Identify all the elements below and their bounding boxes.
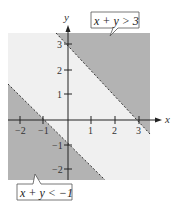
y-axis-arrow-icon <box>66 25 71 32</box>
y-tick-label: 1 <box>57 89 62 100</box>
y-tick-label: −1 <box>52 140 63 151</box>
y-tick-label: 3 <box>57 39 62 50</box>
x-tick-label: 3 <box>136 125 141 136</box>
x-tick-label: 1 <box>88 125 93 136</box>
inequality-graph: x y −2 −1 1 2 3 3 2 1 −1 −2 x + y > 3 x … <box>0 0 172 212</box>
y-tick-label: 2 <box>57 65 62 76</box>
y-axis-label: y <box>63 11 69 23</box>
callout-top: x + y > 3 <box>91 12 139 36</box>
x-axis-label: x <box>164 113 170 125</box>
callout-bottom-text: x + y < −1 <box>19 186 73 200</box>
callout-top-text: x + y > 3 <box>93 14 139 28</box>
x-axis-arrow-icon <box>155 118 162 123</box>
x-tick-label: −1 <box>38 125 49 136</box>
x-tick-label: −2 <box>15 125 26 136</box>
x-tick-label: 2 <box>112 125 117 136</box>
y-tick-label: −2 <box>52 164 63 175</box>
